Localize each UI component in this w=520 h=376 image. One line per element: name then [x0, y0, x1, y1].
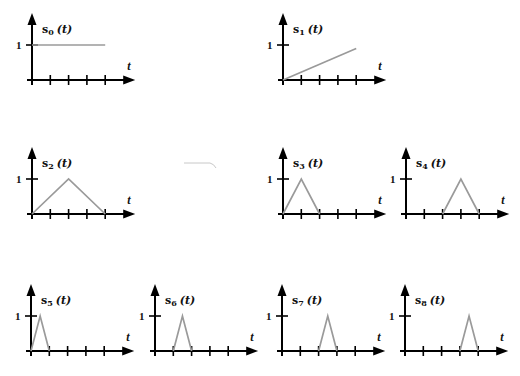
- y-tick-label: 1: [15, 310, 21, 322]
- x-axis-arrow-icon: [374, 76, 386, 85]
- stray-mark: [184, 163, 216, 168]
- signal-curve-s3: [283, 179, 320, 214]
- x-axis-label: t: [378, 193, 382, 207]
- x-axis-label: t: [377, 330, 381, 344]
- x-axis-label: t: [250, 330, 254, 344]
- panel-s5: 1ts5(t): [15, 284, 134, 356]
- panel-s3: 1ts3(t): [267, 147, 386, 219]
- panel-s2: 1ts2(t): [16, 147, 135, 219]
- x-axis-arrow-icon: [123, 76, 135, 85]
- x-axis-label: t: [501, 193, 505, 207]
- y-axis-arrow-icon: [151, 284, 160, 296]
- signal-curve-s8: [460, 316, 478, 351]
- x-axis-arrow-icon: [246, 347, 258, 356]
- y-tick-label: 1: [16, 173, 22, 185]
- y-tick-label: 1: [390, 173, 396, 185]
- panel-s0: 1ts0(t): [16, 13, 135, 85]
- x-axis-label: t: [127, 193, 131, 207]
- x-axis-label: t: [126, 330, 130, 344]
- y-axis-arrow-icon: [402, 147, 411, 159]
- y-tick-label: 1: [389, 310, 395, 322]
- x-axis-arrow-icon: [123, 210, 135, 219]
- y-axis-arrow-icon: [401, 284, 410, 296]
- y-tick-label: 1: [139, 310, 145, 322]
- x-axis-arrow-icon: [374, 210, 386, 219]
- y-tick-label: 1: [266, 310, 272, 322]
- signal-label: s3(t): [293, 157, 323, 171]
- panel-s1: 1ts1(t): [267, 13, 386, 85]
- signal-curve-s5: [31, 316, 49, 351]
- panel-s4: 1ts4(t): [390, 147, 509, 219]
- panel-s7: 1ts7(t): [266, 284, 385, 356]
- signal-label: s5(t): [41, 294, 71, 308]
- y-tick-label: 1: [267, 173, 273, 185]
- x-axis-arrow-icon: [496, 347, 508, 356]
- signal-label: s2(t): [42, 157, 72, 171]
- y-tick-label: 1: [267, 39, 273, 51]
- signal-label: s6(t): [165, 294, 195, 308]
- signal-label: s8(t): [415, 294, 445, 308]
- panel-s8: 1ts8(t): [389, 284, 508, 356]
- y-axis-arrow-icon: [27, 284, 36, 296]
- x-axis-label: t: [127, 59, 131, 73]
- signal-label: s4(t): [416, 157, 446, 171]
- y-axis-arrow-icon: [28, 13, 37, 25]
- y-axis-arrow-icon: [28, 147, 37, 159]
- x-axis-label: t: [378, 59, 382, 73]
- signal-curve-s4: [443, 179, 480, 214]
- y-tick-label: 1: [16, 39, 22, 51]
- signal-label: s7(t): [292, 294, 322, 308]
- panel-s6: 1ts6(t): [139, 284, 258, 356]
- x-axis-label: t: [500, 330, 504, 344]
- signal-basis-figure: 1ts0(t)1ts1(t)1ts2(t)1ts3(t)1ts4(t)1ts5(…: [0, 0, 520, 376]
- x-axis-arrow-icon: [497, 210, 509, 219]
- x-axis-arrow-icon: [122, 347, 134, 356]
- x-axis-arrow-icon: [373, 347, 385, 356]
- signal-curve-s2: [32, 179, 105, 214]
- signal-label: s0(t): [42, 23, 72, 37]
- signal-curve-s7: [319, 316, 337, 351]
- signal-curve-s6: [173, 316, 191, 351]
- y-axis-arrow-icon: [279, 147, 288, 159]
- signal-label: s1(t): [293, 23, 323, 37]
- y-axis-arrow-icon: [279, 13, 288, 25]
- y-axis-arrow-icon: [278, 284, 287, 296]
